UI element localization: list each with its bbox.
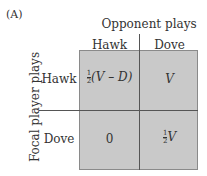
row-header-hawk: Hawk bbox=[40, 72, 78, 86]
column-divider bbox=[139, 34, 140, 170]
row-title: Focal player plays bbox=[28, 42, 42, 172]
row-header-dove: Dove bbox=[40, 132, 78, 146]
cell-hawk-hawk: 12(V – D) bbox=[80, 70, 139, 85]
row-divider bbox=[39, 110, 198, 111]
column-title: Opponent plays bbox=[100, 17, 198, 31]
panel-label: (A) bbox=[6, 8, 23, 21]
cell-hawk-dove: V bbox=[140, 72, 199, 86]
cell-expression: (V – D) bbox=[91, 70, 132, 84]
cell-dove-hawk: 0 bbox=[80, 132, 139, 146]
cell-dove-dove: 12V bbox=[140, 130, 199, 145]
cell-expression: V bbox=[167, 130, 176, 144]
